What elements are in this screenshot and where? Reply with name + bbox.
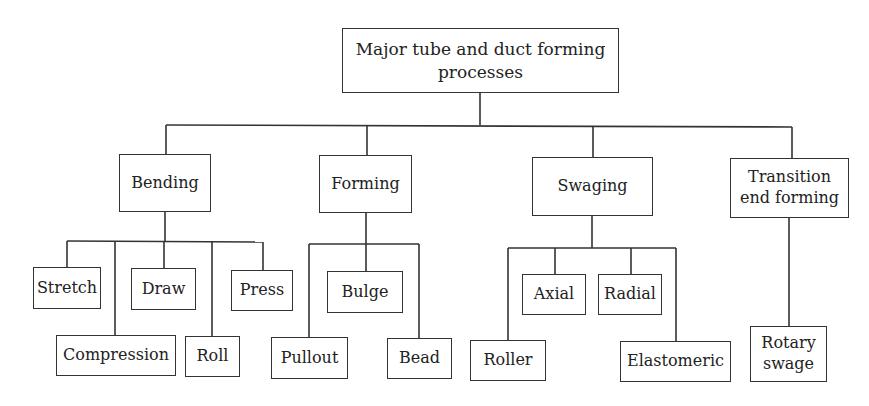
node-compression: Compression	[56, 335, 176, 376]
node-pullout: Pullout	[271, 337, 348, 379]
node-stretch-label: Stretch	[37, 278, 97, 299]
category-forming: Forming	[319, 155, 412, 213]
node-roller: Roller	[470, 340, 546, 381]
node-roller-label: Roller	[483, 350, 532, 371]
category-forming-label: Forming	[331, 174, 399, 195]
node-draw-label: Draw	[142, 279, 186, 300]
node-axial: Axial	[522, 274, 586, 315]
node-pullout-label: Pullout	[281, 348, 339, 369]
node-elastomeric-label: Elastomeric	[627, 351, 724, 372]
node-elastomeric: Elastomeric	[620, 341, 731, 382]
node-roll-label: Roll	[197, 346, 229, 367]
node-press-label: Press	[240, 280, 284, 301]
category-transition-label: Transition end forming	[740, 167, 839, 209]
node-press: Press	[231, 270, 293, 311]
node-stretch: Stretch	[33, 267, 101, 309]
category-bending-label: Bending	[131, 173, 198, 194]
category-transition-end-forming: Transition end forming	[730, 158, 849, 218]
node-rotary-swage-label: Rotary swage	[761, 333, 815, 375]
root-label: Major tube and duct forming processes	[356, 38, 606, 82]
node-radial: Radial	[598, 274, 662, 315]
category-swaging-label: Swaging	[557, 176, 627, 197]
node-bulge-label: Bulge	[342, 282, 389, 303]
node-roll: Roll	[185, 336, 240, 377]
node-bead: Bead	[387, 338, 452, 379]
node-compression-label: Compression	[63, 345, 169, 366]
node-draw: Draw	[131, 268, 196, 310]
node-radial-label: Radial	[604, 284, 656, 305]
category-swaging: Swaging	[532, 157, 653, 216]
category-bending: Bending	[119, 154, 211, 212]
node-rotary-swage: Rotary swage	[750, 326, 827, 382]
node-axial-label: Axial	[534, 284, 574, 305]
node-bead-label: Bead	[399, 348, 440, 369]
node-bulge: Bulge	[327, 271, 403, 313]
root-node: Major tube and duct forming processes	[342, 28, 619, 93]
